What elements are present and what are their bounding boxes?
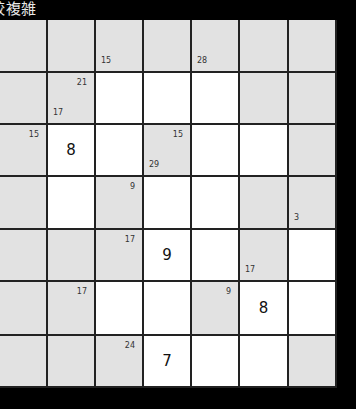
- clue-cell: [240, 73, 289, 125]
- clue-cell: [0, 336, 48, 388]
- entry-cell[interactable]: 9: [144, 230, 192, 282]
- cell-value: 9: [144, 246, 190, 264]
- cell-value: 8: [48, 141, 94, 159]
- clue-cell: 17: [96, 230, 144, 282]
- across-clue: 15: [173, 131, 183, 139]
- across-clue: 9: [130, 183, 135, 191]
- clue-cell: 17: [240, 230, 289, 282]
- clue-cell: 1529: [144, 125, 192, 177]
- clue-cell: 24: [96, 336, 144, 388]
- cell-value: 7: [144, 352, 190, 370]
- entry-cell[interactable]: [144, 73, 192, 125]
- clue-cell: 3: [289, 177, 337, 230]
- clue-cell: [48, 336, 96, 388]
- entry-cell[interactable]: [48, 177, 96, 230]
- clue-cell: 28: [192, 20, 240, 73]
- clue-cell: [0, 230, 48, 282]
- cell-value: 8: [240, 299, 287, 317]
- clue-cell: [0, 282, 48, 336]
- clue-cell: [289, 125, 337, 177]
- entry-cell[interactable]: [96, 73, 144, 125]
- kakuro-grid: 15282117158152993179171798247: [0, 20, 337, 388]
- entry-cell[interactable]: [192, 336, 240, 388]
- across-clue: 17: [125, 236, 135, 244]
- clue-cell: 9: [96, 177, 144, 230]
- down-clue: 17: [245, 266, 255, 274]
- entry-cell[interactable]: [289, 230, 337, 282]
- entry-cell[interactable]: 7: [144, 336, 192, 388]
- entry-cell[interactable]: [192, 177, 240, 230]
- clue-cell: 9: [192, 282, 240, 336]
- entry-cell[interactable]: [192, 230, 240, 282]
- across-clue: 15: [29, 131, 39, 139]
- entry-cell[interactable]: 8: [240, 282, 289, 336]
- across-clue: 17: [77, 288, 87, 296]
- clue-cell: [48, 20, 96, 73]
- clue-cell: [289, 20, 337, 73]
- clue-cell: 2117: [48, 73, 96, 125]
- clue-cell: 17: [48, 282, 96, 336]
- entry-cell[interactable]: [96, 125, 144, 177]
- clue-cell: [0, 20, 48, 73]
- down-clue: 28: [197, 57, 207, 65]
- clue-cell: [144, 20, 192, 73]
- entry-cell[interactable]: [289, 282, 337, 336]
- clue-cell: 15: [0, 125, 48, 177]
- clue-cell: 15: [96, 20, 144, 73]
- entry-cell[interactable]: [192, 125, 240, 177]
- clue-cell: [48, 230, 96, 282]
- across-clue: 24: [125, 342, 135, 350]
- clue-cell: [240, 20, 289, 73]
- entry-cell[interactable]: [144, 282, 192, 336]
- puzzle-title: 較複雑: [0, 0, 37, 20]
- clue-cell: [289, 336, 337, 388]
- clue-cell: [289, 73, 337, 125]
- down-clue: 17: [53, 109, 63, 117]
- clue-cell: [0, 73, 48, 125]
- clue-cell: [240, 177, 289, 230]
- down-clue: 29: [149, 161, 159, 169]
- across-clue: 21: [77, 79, 87, 87]
- down-clue: 3: [294, 214, 299, 222]
- entry-cell[interactable]: [192, 73, 240, 125]
- down-clue: 15: [101, 57, 111, 65]
- across-clue: 9: [226, 288, 231, 296]
- entry-cell[interactable]: [144, 177, 192, 230]
- entry-cell[interactable]: [96, 282, 144, 336]
- entry-cell[interactable]: [240, 125, 289, 177]
- clue-cell: [0, 177, 48, 230]
- entry-cell[interactable]: [240, 336, 289, 388]
- entry-cell[interactable]: 8: [48, 125, 96, 177]
